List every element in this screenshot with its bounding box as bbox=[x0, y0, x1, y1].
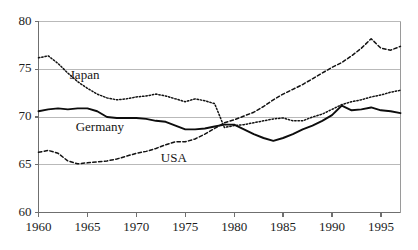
y-tick-label: 70 bbox=[2, 108, 32, 124]
line-chart: 6065707580 19601965197019751980198519901… bbox=[0, 0, 418, 250]
x-tick-label: 1960 bbox=[17, 219, 61, 235]
y-tick-label: 80 bbox=[2, 13, 32, 29]
plot-canvas bbox=[0, 0, 418, 250]
series-label-germany: Germany bbox=[76, 119, 124, 135]
x-tick-label: 1975 bbox=[163, 219, 207, 235]
x-tick-label: 1980 bbox=[212, 219, 256, 235]
x-tick-label: 1985 bbox=[261, 219, 305, 235]
y-tick-label: 65 bbox=[2, 156, 32, 172]
x-tick-label: 1990 bbox=[310, 219, 354, 235]
series-label-usa: USA bbox=[161, 150, 187, 166]
series-line-usa bbox=[39, 39, 401, 164]
x-tick-label: 1995 bbox=[359, 219, 403, 235]
gridlines bbox=[39, 22, 401, 165]
x-tick-label: 1970 bbox=[114, 219, 158, 235]
x-tick-label: 1965 bbox=[65, 219, 109, 235]
series-label-japan: Japan bbox=[70, 67, 100, 83]
y-tick-label: 60 bbox=[2, 204, 32, 220]
y-tick-label: 75 bbox=[2, 60, 32, 76]
data-series-group bbox=[39, 39, 401, 164]
